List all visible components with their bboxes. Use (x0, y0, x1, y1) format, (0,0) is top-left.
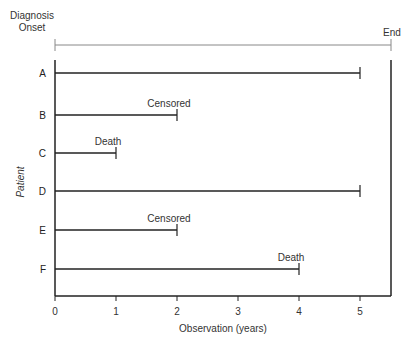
x-tick-label: 0 (52, 306, 58, 317)
patient-rows: ABCensoredCDeathDECensoredFDeath (39, 67, 360, 275)
patient-row-a: A (39, 67, 360, 79)
patient-row-b: BCensored (39, 98, 190, 121)
event-annotation: Death (278, 252, 305, 263)
survival-timeline-chart: Diagnosis Onset End 012345 Observation (… (0, 0, 413, 351)
x-tick-label: 1 (113, 306, 119, 317)
event-annotation: Censored (147, 213, 190, 224)
y-axis-label: Patient (15, 165, 26, 197)
patient-label: D (39, 186, 46, 197)
patient-label: C (39, 148, 46, 159)
patient-row-d: D (39, 185, 360, 197)
patient-label: E (39, 225, 46, 236)
event-annotation: Death (95, 136, 122, 147)
event-annotation: Censored (147, 98, 190, 109)
x-axis-label: Observation (years) (179, 323, 267, 334)
patient-row-c: CDeath (39, 136, 122, 159)
plot-axes (55, 60, 391, 296)
x-tick-label: 4 (296, 306, 302, 317)
end-label: End (383, 27, 401, 38)
patient-label: F (40, 264, 46, 275)
top-span (55, 39, 391, 51)
patient-row-e: ECensored (39, 213, 190, 236)
x-tick-label: 2 (174, 306, 180, 317)
diagnosis-label-line2: Onset (19, 22, 46, 33)
patient-label: B (39, 110, 46, 121)
patient-row-f: FDeath (40, 252, 304, 275)
x-axis-ticks: 012345 (52, 296, 363, 317)
x-tick-label: 3 (235, 306, 241, 317)
diagnosis-label-line1: Diagnosis (10, 10, 54, 21)
patient-label: A (39, 68, 46, 79)
x-tick-label: 5 (357, 306, 363, 317)
